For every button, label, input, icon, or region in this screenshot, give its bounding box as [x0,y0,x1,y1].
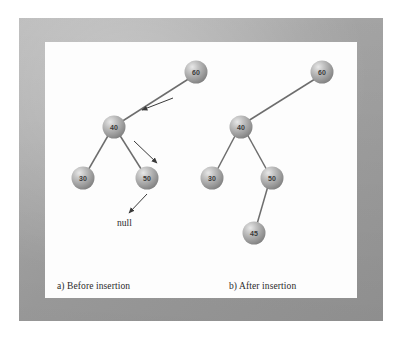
node-label: 50 [268,175,276,182]
edge-60-40 [248,79,315,121]
edge-40-50 [247,134,268,172]
null-label: null [117,218,132,228]
node-30-before: 30 [72,167,95,190]
tree-after-edges [216,79,315,224]
node-60-before: 60 [185,61,208,84]
node-30-after: 30 [201,167,224,190]
tree-diagram-canvas: 60 40 30 50 [0,0,404,345]
search-right-arrow-icon [134,141,157,163]
caption-before-insertion: a) Before insertion [57,281,130,291]
edge-40-50 [119,134,143,172]
edge-60-40 [121,78,190,122]
node-label: 40 [110,124,118,131]
node-60-after: 60 [311,61,334,84]
node-label: 40 [237,124,245,131]
node-45-after: 45 [243,222,266,245]
edge-40-30 [87,134,109,172]
tree-before-insertion: 60 40 30 50 [72,61,208,214]
node-label: 60 [318,69,326,76]
node-label: 30 [79,175,87,182]
node-40-after: 40 [230,116,253,139]
node-label: 45 [250,230,258,237]
tree-after-insertion: 60 40 30 50 45 [201,61,334,245]
node-label: 50 [143,175,151,182]
figure-root: 60 40 30 50 [0,0,404,345]
null-pointer-arrow-icon [129,194,147,213]
caption-after-insertion: b) After insertion [229,281,296,291]
tree-before-annotation-arrows [129,98,173,213]
node-40-before: 40 [103,116,126,139]
edge-40-30 [216,134,236,172]
node-50-before: 50 [136,167,159,190]
edge-50-45 [257,186,268,224]
search-left-arrow-icon [142,98,173,110]
node-50-after: 50 [261,167,284,190]
node-label: 30 [208,175,216,182]
tree-before-edges [87,78,190,172]
node-label: 60 [192,69,200,76]
